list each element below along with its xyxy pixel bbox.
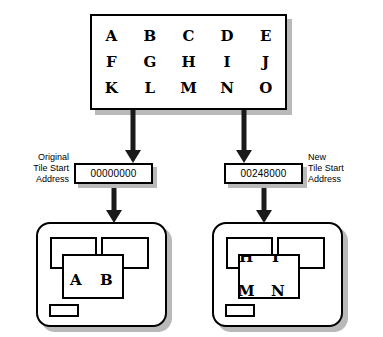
new-address-box: 00248000 [224, 163, 303, 184]
memory-grid-cell: M [169, 81, 208, 96]
memory-grid-row: A B C D E [92, 23, 285, 49]
window-center: H I M N [238, 254, 300, 299]
window-taskbar [49, 304, 79, 317]
memory-grid-cell: C [169, 29, 208, 44]
new-address-label-line2: Tile Start [308, 163, 370, 174]
visible-letter: M [238, 284, 255, 299]
memory-grid-cell: E [246, 29, 285, 44]
window-taskbar [225, 304, 255, 317]
original-address-box: 00000000 [74, 163, 153, 184]
memory-grid-cell: L [131, 81, 170, 96]
arrow-grid-to-new-address [235, 110, 252, 163]
new-address-label-line3: Address [308, 174, 370, 185]
visible-letter: B [100, 273, 113, 288]
original-address-value: 00000000 [90, 168, 136, 179]
arrow-grid-to-original-address [124, 110, 141, 163]
memory-grid-cell: B [131, 29, 170, 44]
memory-grid-cell: O [246, 81, 285, 96]
original-address-label: Original Tile Start Address [12, 152, 69, 185]
memory-grid-cell: J [246, 55, 285, 70]
arrow-new-address-to-panel [255, 183, 272, 223]
original-address-label-line2: Tile Start [12, 163, 69, 174]
new-address-label: New Tile Start Address [308, 152, 370, 185]
visible-letter: I [272, 254, 279, 265]
memory-grid: A B C D E F G H I J K L M N O [90, 14, 287, 110]
visible-letter: A [70, 273, 82, 288]
memory-grid-cell: I [208, 55, 247, 70]
memory-grid-cell: F [92, 55, 131, 70]
new-address-label-line1: New [308, 152, 370, 163]
memory-grid-row: F G H I J [92, 49, 285, 75]
visible-letter: H [239, 254, 253, 265]
memory-grid-row: K L M N O [92, 75, 285, 101]
original-address-label-line1: Original [12, 152, 69, 163]
window-center: A B [62, 254, 124, 299]
memory-grid-cell: D [208, 29, 247, 44]
memory-grid-cell: A [92, 29, 131, 44]
diagram-canvas: A B C D E F G H I J K L M N O 00000000 [0, 0, 383, 337]
visible-letter: N [271, 284, 285, 299]
memory-grid-cell: N [208, 81, 247, 96]
memory-grid-cell: H [169, 55, 208, 70]
original-display-panel: A B [36, 222, 167, 327]
new-display-panel: H I M N [212, 222, 343, 327]
original-address-label-line3: Address [12, 174, 69, 185]
memory-grid-cell: G [131, 55, 170, 70]
new-address-value: 00248000 [240, 168, 286, 179]
arrow-original-address-to-panel [105, 183, 122, 223]
memory-grid-cell: K [92, 81, 131, 96]
